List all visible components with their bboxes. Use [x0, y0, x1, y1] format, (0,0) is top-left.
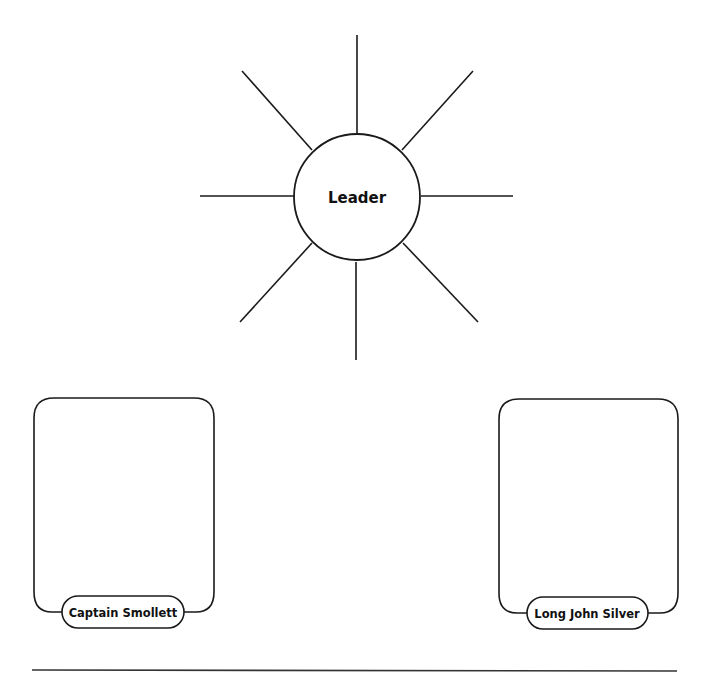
character-box-long-john-silver: Long John Silver	[499, 399, 678, 629]
box-outline	[34, 398, 214, 612]
spoke-top-left	[242, 71, 312, 150]
box-outline	[499, 399, 678, 613]
leader-node: Leader	[294, 134, 420, 260]
character-box-captain-smollett: Captain Smollett	[34, 398, 214, 628]
footer-rule	[32, 670, 677, 671]
leader-graphic-organizer: Leader Captain Smollett Long John Silver	[0, 0, 711, 684]
spoke-bottom-right	[403, 243, 478, 322]
character-label: Long John Silver	[534, 607, 640, 621]
character-label: Captain Smollett	[69, 606, 178, 620]
leader-label: Leader	[328, 189, 387, 207]
spoke-top-right	[402, 71, 473, 150]
spoke-bottom-left	[240, 243, 312, 322]
